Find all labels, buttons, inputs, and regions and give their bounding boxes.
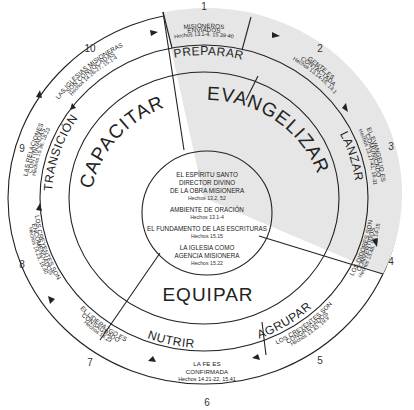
svg-text:Hechos 15.22: Hechos 15.22	[191, 260, 223, 266]
svg-text:DE LA OBRA MISIONERA: DE LA OBRA MISIONERA	[170, 187, 245, 194]
arrow-icon	[148, 356, 156, 362]
stage-8-label: Hechos 14.23, 16.40 ENCOMENDADOS LOS CRE…	[28, 215, 63, 281]
sector-capacitar: CAPACITAR	[75, 91, 167, 190]
svg-text:DIRECTOR DIVINO: DIRECTOR DIVINO	[179, 179, 235, 186]
stage-6-label: LA FE ES CONFIRMADA Hechos 14.21-22, 15.…	[178, 360, 236, 382]
svg-text:LA FE ES: LA FE ES	[193, 360, 221, 367]
svg-text:Hechos 14.21-22, 15.41: Hechos 14.21-22, 15.41	[178, 376, 236, 382]
arrow-icon	[36, 203, 42, 211]
svg-text:CONFIRMADA: CONFIRMADA	[186, 368, 229, 375]
stage-number-7: 7	[87, 357, 93, 368]
svg-text:Hechos 13.1-4: Hechos 13.1-4	[190, 214, 224, 220]
svg-text:AMBIENTE DE ORACIÓN: AMBIENTE DE ORACIÓN	[170, 205, 244, 213]
cycle-wheel: 1 2 3 4 5 6 7 8 9 10 MISIONEROS ENVIADOS…	[0, 0, 414, 410]
stage-number-6: 6	[204, 397, 210, 408]
stage-number-9: 9	[19, 143, 25, 154]
stage-number-4: 4	[388, 256, 394, 267]
svg-text:EL ESPÍRITU SANTO: EL ESPÍRITU SANTO	[176, 170, 238, 178]
stage-number-3: 3	[388, 141, 394, 152]
svg-text:AGENCIA MISIONERA: AGENCIA MISIONERA	[174, 252, 240, 259]
arrow-icon	[252, 354, 260, 360]
svg-text:Hechos 15.15: Hechos 15.15	[191, 233, 223, 239]
svg-text:LA IGLESIA COMO: LA IGLESIA COMO	[180, 244, 235, 251]
stage-number-10: 10	[84, 43, 96, 54]
sector-equipar: EQUIPAR	[162, 284, 253, 305]
svg-text:EL FUNDAMENTO DE LAS ESCRITURA: EL FUNDAMENTO DE LAS ESCRITURAS	[147, 225, 267, 232]
svg-text:Hechos 13.2, 52: Hechos 13.2, 52	[188, 195, 226, 201]
arrow-icon	[48, 296, 55, 304]
stage-number-5: 5	[317, 355, 323, 366]
band-nutrir: NUTRIR	[146, 328, 195, 351]
stage-number-2: 2	[317, 43, 323, 54]
stage-number-8: 8	[19, 259, 25, 270]
stage-number-1: 1	[201, 1, 207, 12]
missionary-cycle-diagram: 1 2 3 4 5 6 7 8 9 10 MISIONEROS ENVIADOS…	[0, 0, 414, 410]
arrow-icon	[150, 30, 158, 36]
